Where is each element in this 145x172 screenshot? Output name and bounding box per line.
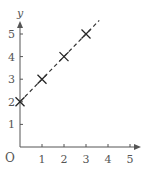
y-tick-label: 1 [8, 118, 15, 131]
tick-labels: yO1234512345 [5, 7, 133, 166]
dashed-line [20, 20, 99, 101]
x-tick-label: 3 [83, 153, 90, 166]
origin-label: O [5, 151, 15, 165]
y-axis-arrow-icon [17, 21, 23, 28]
x-tick-label: 1 [39, 153, 46, 166]
y-tick-label: 5 [8, 28, 15, 41]
chart-canvas: yO1234512345 [0, 0, 145, 172]
x-axis-arrow-icon [134, 144, 141, 150]
series [16, 20, 100, 106]
y-tick-label: 2 [8, 96, 15, 109]
x-tick-label: 5 [127, 153, 134, 166]
ticks [20, 34, 130, 147]
y-axis-label: y [16, 7, 24, 20]
y-tick-label: 3 [8, 73, 15, 86]
x-tick-label: 4 [105, 153, 112, 166]
y-tick-label: 4 [8, 51, 15, 64]
x-tick-label: 2 [61, 153, 68, 166]
